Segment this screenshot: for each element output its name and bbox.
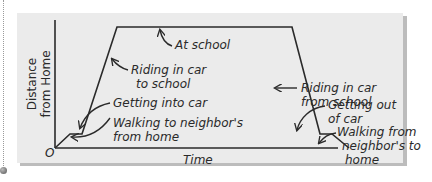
annotation-get-in: Getting into car — [113, 96, 208, 110]
y-axis-label-line2: from Home — [39, 50, 53, 117]
y-axis-label-line1: Distance — [25, 58, 39, 110]
origin-label: O — [45, 146, 54, 160]
annotation-walk-to-2: from home — [113, 130, 179, 144]
annotation-ride-to-1: Riding in car — [131, 63, 207, 77]
annotation-get-out-1: Getting out — [328, 98, 397, 112]
annotation-ride-from-1: Riding in car — [301, 81, 377, 95]
distance-time-graph: Distance from Home O Time At school Ridi… — [0, 0, 432, 182]
annotation-walk-from-3: home — [345, 153, 379, 167]
annotation-walk-to-1: Walking to neighbor's — [113, 116, 243, 130]
x-axis-label: Time — [183, 153, 213, 167]
annotation-walk-from-2: neighbor's to — [342, 139, 421, 153]
arrow-getting-out-of-car — [297, 106, 325, 130]
annotation-ride-to-2: to school — [136, 77, 191, 91]
annotation-at-school: At school — [174, 38, 231, 52]
arrow-riding-to-school — [112, 59, 128, 70]
annotation-walk-from-1: Walking from — [337, 125, 416, 139]
arrow-at-school — [160, 30, 172, 46]
annotation-get-out-2: of car — [328, 112, 363, 126]
